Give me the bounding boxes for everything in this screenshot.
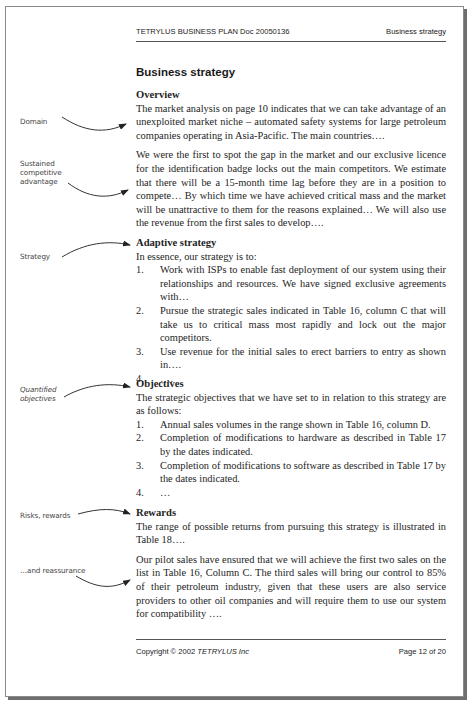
annotation-line: objectives — [20, 394, 57, 403]
list-number: 3. — [136, 459, 160, 486]
list-text: Work with ISPs to enable fast deployment… — [160, 263, 446, 304]
section-heading-objectives: Objectives — [136, 377, 446, 391]
paragraph: The market analysis on page 10 indicates… — [136, 102, 446, 143]
list-item: 2.Completion of modifications to hardwar… — [136, 431, 446, 458]
header-doc-title: TETRYLUS BUSINESS PLAN Doc 20050136 — [136, 27, 290, 36]
annotation-line: advantage — [20, 177, 62, 186]
running-header: TETRYLUS BUSINESS PLAN Doc 20050136 Busi… — [136, 24, 446, 38]
list-item: 2.Pursue the strategic sales indicated i… — [136, 304, 446, 345]
footer-copyright: Copyright © 2002 TETRYLUS Inc — [136, 647, 249, 656]
header-rule — [136, 41, 446, 42]
annotation-strategy: Strategy — [20, 252, 50, 261]
list-text: Annual sales volumes in the range shown … — [160, 418, 446, 432]
annotation-line: Quantified — [20, 385, 57, 394]
list-number: 4. — [136, 486, 160, 500]
section-heading-overview: Overview — [136, 88, 446, 102]
section-overview: Overview The market analysis on page 10 … — [136, 88, 446, 230]
list-text: … — [160, 486, 446, 500]
list-number: 1. — [136, 263, 160, 304]
paragraph: Our pilot sales have ensured that we wil… — [136, 553, 446, 621]
paragraph: The range of possible returns from pursu… — [136, 520, 446, 547]
header-section: Business strategy — [386, 27, 446, 36]
annotation-advantage: Sustained competitive advantage — [20, 159, 62, 186]
annotation-risks: Risks, rewards — [20, 511, 70, 520]
annotation-line: competitive — [20, 168, 62, 177]
list-number: 2. — [136, 431, 160, 458]
section-heading-adaptive-strategy: Adaptive strategy — [136, 236, 446, 250]
annotation-reassurance: …and reassurance — [20, 566, 85, 575]
annotation-domain: Domain — [20, 117, 47, 126]
list-item: 3.Completion of modifications to softwar… — [136, 459, 446, 486]
section-adaptive-strategy: Adaptive strategy In essence, our strate… — [136, 236, 446, 386]
intro-text: The strategic objectives that we have se… — [136, 391, 446, 418]
objectives-list: 1.Annual sales volumes in the range show… — [136, 418, 446, 500]
page-number: Page 12 of 20 — [399, 647, 446, 656]
list-number: 2. — [136, 304, 160, 345]
running-footer: Copyright © 2002 TETRYLUS Inc Page 12 of… — [136, 647, 446, 656]
section-objectives: Objectives The strategic objectives that… — [136, 377, 446, 499]
list-text: Use revenue for the initial sales to ere… — [160, 345, 446, 372]
list-text: Completion of modifications to software … — [160, 459, 446, 486]
list-number: 3. — [136, 345, 160, 372]
footer-rule — [136, 639, 446, 640]
intro-text: In essence, our strategy is to: — [136, 250, 446, 264]
page-title: Business strategy — [136, 66, 235, 78]
annotation-line: Sustained — [20, 159, 62, 168]
list-text: Pursue the strategic sales indicated in … — [160, 304, 446, 345]
list-text: Completion of modifications to hardware … — [160, 431, 446, 458]
annotation-objectives: Quantified objectives — [20, 385, 57, 403]
list-item: 3.Use revenue for the initial sales to e… — [136, 345, 446, 372]
list-item: 1.Work with ISPs to enable fast deployme… — [136, 263, 446, 304]
copyright-text: Copyright © 2002 — [136, 647, 197, 656]
section-heading-rewards: Rewards — [136, 506, 446, 520]
list-number: 1. — [136, 418, 160, 432]
strategy-list: 1.Work with ISPs to enable fast deployme… — [136, 263, 446, 385]
list-item: 4.… — [136, 486, 446, 500]
list-item: 1.Annual sales volumes in the range show… — [136, 418, 446, 432]
paragraph: We were the first to spot the gap in the… — [136, 148, 446, 230]
company-name: TETRYLUS Inc — [197, 647, 249, 656]
section-rewards: Rewards The range of possible returns fr… — [136, 506, 446, 621]
